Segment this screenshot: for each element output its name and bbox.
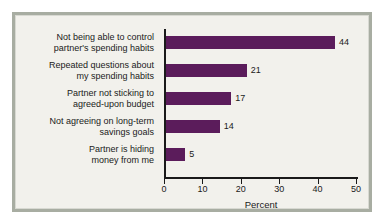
x-axis-tick-label: 20 [228, 184, 254, 194]
category-label: Repeated questions aboutmy spending habi… [10, 60, 154, 81]
category-label-line1: Not agreeing on long-term [10, 116, 154, 127]
x-axis-line [164, 177, 358, 179]
bar-row: Not agreeing on long-termsavings goals14 [15, 113, 369, 141]
category-label-line1: Repeated questions about [10, 60, 154, 71]
bar-chart: Not being able to controlpartner's spend… [15, 15, 369, 209]
category-label: Partner not sticking toagreed-upon budge… [10, 88, 154, 109]
bar-value-label: 5 [189, 148, 194, 161]
category-label-line1: Partner not sticking to [10, 88, 154, 99]
bar-row: Not being able to controlpartner's spend… [15, 29, 369, 57]
category-label: Not agreeing on long-termsavings goals [10, 116, 154, 137]
category-label: Partner is hidingmoney from me [10, 144, 154, 165]
category-label-line1: Not being able to control [10, 32, 154, 43]
bar-row: Repeated questions aboutmy spending habi… [15, 57, 369, 85]
bar [166, 36, 335, 49]
bar [166, 64, 247, 77]
bar-value-label: 17 [235, 92, 245, 105]
category-label-line2: my spending habits [10, 71, 154, 82]
x-axis-tick-label: 50 [343, 184, 369, 194]
category-label-line2: agreed-upon budget [10, 99, 154, 110]
chart-frame: Not being able to controlpartner's spend… [12, 12, 372, 212]
x-axis-tick-label: 0 [151, 184, 177, 194]
category-label-line2: partner's spending habits [10, 43, 154, 54]
category-label-line2: savings goals [10, 127, 154, 138]
category-label-line1: Partner is hiding [10, 144, 154, 155]
bar-value-label: 44 [339, 36, 349, 49]
category-label-line2: money from me [10, 155, 154, 166]
bar [166, 120, 220, 133]
x-axis-tick-label: 40 [305, 184, 331, 194]
x-axis-tick-label: 10 [189, 184, 215, 194]
bar-row: Partner is hidingmoney from me5 [15, 141, 369, 169]
x-axis-tick-label: 30 [266, 184, 292, 194]
bar [166, 148, 185, 161]
x-axis-title: Percent [164, 199, 358, 210]
bar-row: Partner not sticking toagreed-upon budge… [15, 85, 369, 113]
bar [166, 92, 231, 105]
category-label: Not being able to controlpartner's spend… [10, 32, 154, 53]
bar-value-label: 21 [251, 64, 261, 77]
bar-value-label: 14 [224, 120, 234, 133]
chart-page: Not being able to controlpartner's spend… [0, 0, 386, 224]
